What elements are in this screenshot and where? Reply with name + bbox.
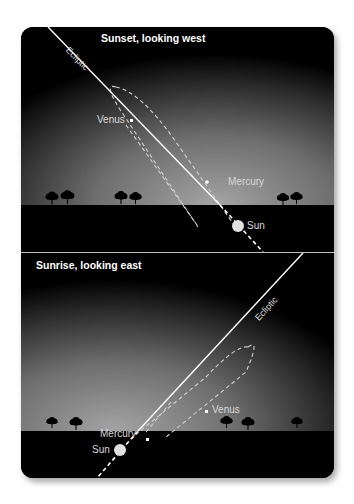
top-panel-title: Sunset, looking west bbox=[101, 32, 205, 44]
diagram-svg bbox=[21, 27, 334, 478]
sun-label-top: Sun bbox=[247, 220, 265, 231]
sky-bottom bbox=[21, 253, 334, 431]
venus-dot-top bbox=[130, 119, 133, 122]
venus-dot-bottom bbox=[205, 410, 208, 413]
diagram-panel: Sunset, looking west Ecliptic Venus Merc… bbox=[21, 27, 334, 478]
sun-label-bottom: Sun bbox=[92, 444, 110, 455]
ground-bottom bbox=[21, 431, 334, 478]
mercury-dot-bottom bbox=[146, 438, 149, 441]
sun-top bbox=[232, 220, 244, 232]
mercury-label-bottom: Mercury bbox=[100, 428, 136, 439]
venus-label-top: Venus bbox=[97, 114, 125, 125]
mercury-label-top: Mercury bbox=[228, 176, 264, 187]
mercury-dot-top bbox=[205, 180, 209, 184]
ground-top bbox=[21, 205, 334, 253]
venus-label-bottom: Venus bbox=[212, 404, 240, 415]
bottom-panel-title: Sunrise, looking east bbox=[36, 259, 142, 271]
sun-bottom bbox=[114, 444, 126, 456]
